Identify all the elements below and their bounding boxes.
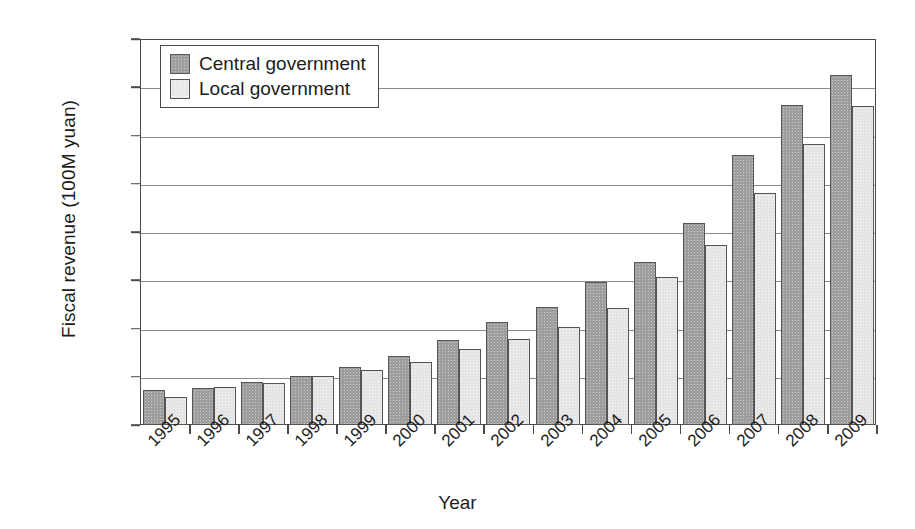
x-tick-mark: [827, 425, 829, 434]
bar-local-2003: [558, 327, 580, 425]
x-tick-mark: [189, 425, 191, 434]
y-tick-mark: [131, 231, 140, 233]
x-tick-mark: [582, 425, 584, 434]
legend-item-local: Local government: [170, 78, 366, 100]
x-tick-mark: [385, 425, 387, 434]
legend-swatch-local-icon: [170, 79, 190, 99]
bar-group: [732, 39, 776, 425]
bar-central-2005: [634, 262, 656, 425]
y-axis-title: Fiscal revenue (100M yuan): [58, 19, 80, 419]
bar-central-2001: [437, 340, 459, 425]
x-tick-mark: [631, 425, 633, 434]
y-tick-mark: [131, 376, 140, 378]
y-tick-mark: [131, 38, 140, 40]
x-axis-title: Year: [0, 492, 915, 514]
bar-group: [585, 39, 629, 425]
x-tick-mark: [238, 425, 240, 434]
y-tick-mark: [131, 328, 140, 330]
bar-central-2008: [781, 105, 803, 425]
bar-group: [781, 39, 825, 425]
bar-local-2009: [852, 106, 874, 425]
bar-local-2008: [803, 144, 825, 425]
legend-item-central: Central government: [170, 53, 366, 75]
x-tick-mark: [729, 425, 731, 434]
bar-group: [634, 39, 678, 425]
bar-central-2002: [486, 322, 508, 425]
fiscal-revenue-bar-chart: Fiscal revenue (100M yuan) 0500010,00015…: [0, 0, 915, 529]
legend: Central government Local government: [160, 45, 379, 108]
bar-central-2000: [388, 356, 410, 425]
legend-label-local: Local government: [199, 78, 350, 100]
bar-central-1999: [339, 367, 361, 425]
bar-central-2009: [830, 75, 852, 425]
bar-central-2003: [536, 307, 558, 425]
bar-group: [683, 39, 727, 425]
y-tick-mark: [131, 183, 140, 185]
x-tick-mark: [876, 425, 878, 434]
y-tick-mark: [131, 135, 140, 137]
bar-group: [830, 39, 874, 425]
bar-central-2007: [732, 155, 754, 425]
bar-local-2004: [607, 308, 629, 425]
bar-local-2007: [754, 193, 776, 425]
x-tick-mark: [287, 425, 289, 434]
bar-group: [388, 39, 432, 425]
bar-local-2006: [705, 245, 727, 425]
x-tick-mark: [778, 425, 780, 434]
bar-group: [536, 39, 580, 425]
x-tick-mark: [533, 425, 535, 434]
x-tick-mark: [680, 425, 682, 434]
x-tick-mark: [336, 425, 338, 434]
bar-local-2005: [656, 277, 678, 425]
legend-swatch-central-icon: [170, 54, 190, 74]
bar-group: [486, 39, 530, 425]
y-tick-mark: [131, 279, 140, 281]
legend-label-central: Central government: [199, 53, 366, 75]
x-tick-mark: [483, 425, 485, 434]
x-tick-mark: [434, 425, 436, 434]
bar-central-2004: [585, 282, 607, 425]
bar-group: [437, 39, 481, 425]
bar-central-2006: [683, 223, 705, 425]
y-tick-mark: [131, 424, 140, 426]
y-tick-mark: [131, 86, 140, 88]
